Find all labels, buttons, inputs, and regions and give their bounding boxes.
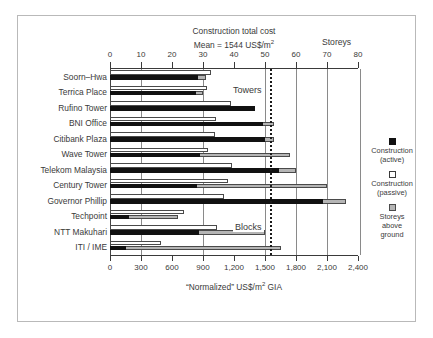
bar-construction-active (110, 215, 129, 220)
legend-label-storeys-line3: ground (364, 231, 420, 240)
legend-entry-construction-passive: Construction (passive) (364, 171, 420, 197)
bar-construction-active (110, 246, 126, 251)
annotation-towers: Towers (231, 85, 264, 95)
bar-construction-passive (110, 225, 217, 230)
legend-label-storeys: Storeys above ground (364, 213, 420, 239)
x-axis-caption: “Normalized” US$/m2 GIA (110, 281, 358, 292)
bar-construction-active (110, 153, 200, 158)
bar-construction-active (110, 75, 198, 80)
bar-construction-passive (110, 70, 211, 75)
legend-swatch-active (389, 138, 396, 145)
legend-label-active: Construction (active) (364, 147, 420, 164)
x-axis-caption-prefix: “Normalized” US$/m (186, 282, 262, 292)
legend-label-active-line2: (active) (364, 156, 420, 165)
bar-construction-active (110, 122, 263, 127)
legend-swatch-storeys (389, 204, 396, 211)
bar-construction-active (110, 91, 196, 96)
bar-construction-active (110, 106, 255, 111)
bar-construction-passive (110, 117, 216, 122)
legend-swatch-passive (389, 171, 396, 178)
bar-construction-active (110, 230, 199, 235)
bar-construction-passive (110, 163, 232, 168)
bar-construction-passive (110, 241, 161, 246)
bar-construction-active (110, 199, 323, 204)
x-axis-caption-suffix: GIA (265, 282, 282, 292)
bar-construction-passive (110, 132, 215, 137)
bar-construction-passive (110, 194, 224, 199)
legend-entry-construction-active: Construction (active) (364, 138, 420, 164)
bar-construction-passive (110, 210, 184, 215)
legend-label-passive: Construction (passive) (364, 180, 420, 197)
mean-reference-line (270, 69, 272, 255)
bar-construction-active (110, 184, 197, 189)
chart-figure: Construction total cost Mean = 1544 US$/… (0, 0, 433, 338)
legend-entry-storeys-above-ground: Storeys above ground (364, 204, 420, 239)
bar-storeys-above-ground (110, 246, 281, 251)
bar-construction-active (110, 137, 265, 142)
legend-label-passive-line2: (passive) (364, 189, 420, 198)
bar-construction-active (110, 168, 279, 173)
bar-construction-passive (110, 148, 208, 153)
bar-construction-passive (110, 101, 231, 106)
bar-construction-passive (110, 179, 228, 184)
bar-construction-passive (110, 86, 207, 91)
chart-legend: Construction (active) Construction (pass… (364, 138, 420, 246)
annotation-blocks: Blocks (233, 222, 264, 232)
